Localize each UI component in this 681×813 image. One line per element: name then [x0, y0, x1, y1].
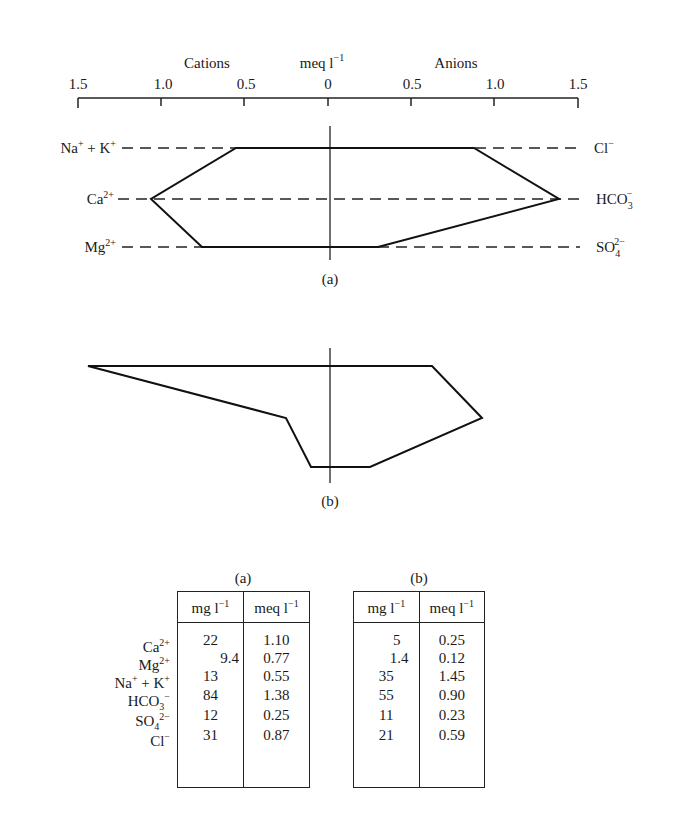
cell: 55 — [354, 685, 419, 705]
cell: 0.25 — [244, 705, 309, 725]
cell: 0.55 — [244, 667, 309, 685]
row-label-ca: Ca2+ — [40, 634, 170, 652]
cell: 1.4 — [354, 649, 419, 667]
tick-label: 1.5 — [569, 76, 588, 92]
ion-label-so4: SO42− — [596, 236, 625, 259]
cell: 31 — [178, 725, 243, 745]
cell: 0.59 — [420, 725, 484, 745]
table-b-title: (b) — [410, 570, 428, 587]
caption-b: (b) — [321, 493, 339, 510]
table-a-title: (a) — [235, 570, 252, 587]
cell: 9.4 — [178, 649, 243, 667]
table-b: mg l−1 meq l−1 5 1.4 35 55 11 21 0.25 0.… — [353, 591, 485, 788]
cell: 0.77 — [244, 649, 309, 667]
cell: 0.12 — [420, 649, 484, 667]
cell: 12 — [178, 705, 243, 725]
stiff-polygon-a — [151, 148, 559, 247]
diagram-a: Na+ + K+ Ca2+ Mg2+ Cl− HCO3− SO42− (a) — [60, 126, 632, 288]
row-label-hco3: HCO3− — [40, 688, 170, 708]
ion-label-cl: Cl− — [594, 138, 614, 156]
ion-label-na-k: Na+ + K+ — [60, 138, 116, 156]
cell: 21 — [354, 725, 419, 745]
tick-label: 1.5 — [69, 76, 88, 92]
header-mg: mg l−1 — [354, 592, 420, 623]
col-mg: 22 9.4 13 84 12 31 — [178, 623, 244, 788]
cell: 13 — [178, 667, 243, 685]
tick-label: 0.5 — [403, 76, 422, 92]
cations-label: Cations — [184, 55, 230, 71]
row-label-mg: Mg2+ — [40, 652, 170, 670]
axis-unit-label: meq l−1 — [300, 52, 344, 71]
row-label-so4: SO42− — [40, 708, 170, 728]
tick-label: 1.0 — [486, 76, 505, 92]
cell: 22 — [178, 631, 243, 649]
cell: 11 — [354, 705, 419, 725]
cell: 1.45 — [420, 667, 484, 685]
row-label-cl: Cl− — [40, 728, 170, 748]
table-a: mg l−1 meq l−1 22 9.4 13 84 12 31 1.10 0… — [177, 591, 310, 788]
cell: 84 — [178, 685, 243, 705]
header-meq: meq l−1 — [243, 592, 309, 623]
tick-label: 0 — [324, 76, 332, 92]
cell: 5 — [354, 631, 419, 649]
tick-label: 1.0 — [154, 76, 173, 92]
cell: 0.90 — [420, 685, 484, 705]
col-meq: 1.10 0.77 0.55 1.38 0.25 0.87 — [243, 623, 309, 788]
ion-label-hco3: HCO3− — [596, 188, 633, 211]
ion-label-mg: Mg2+ — [85, 237, 117, 255]
ion-label-ca: Ca2+ — [87, 189, 115, 207]
col-mg: 5 1.4 35 55 11 21 — [354, 623, 420, 788]
cell: 0.25 — [420, 631, 484, 649]
stiff-polygon-b — [88, 366, 482, 467]
cell: 1.10 — [244, 631, 309, 649]
table-row-labels: Ca2+ Mg2+ Na+ + K+ HCO3− SO42− Cl− — [40, 634, 170, 748]
anions-label: Anions — [434, 55, 478, 71]
row-label-na-k: Na+ + K+ — [40, 670, 170, 688]
diagram-b: (b) — [88, 348, 482, 510]
cell: 1.38 — [244, 685, 309, 705]
caption-a: (a) — [322, 271, 339, 288]
meq-axis — [78, 98, 578, 108]
cell: 0.87 — [244, 725, 309, 745]
tick-label: 0.5 — [237, 76, 256, 92]
col-meq: 0.25 0.12 1.45 0.90 0.23 0.59 — [419, 623, 484, 788]
header-mg: mg l−1 — [178, 592, 244, 623]
cell: 0.23 — [420, 705, 484, 725]
cell: 35 — [354, 667, 419, 685]
header-meq: meq l−1 — [419, 592, 484, 623]
